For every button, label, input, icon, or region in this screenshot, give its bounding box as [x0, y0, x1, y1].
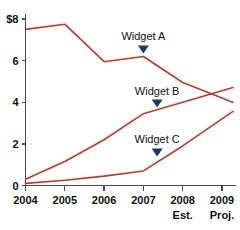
x-tick-label: 2006 [92, 194, 116, 206]
x-tick-label: 2008 [170, 194, 194, 206]
y-tick-label: 2 [12, 138, 18, 150]
line-chart: 0246$8 20042005200620072008Est.2009Proj.… [0, 0, 240, 230]
annotation-label-widget-c: Widget C [135, 133, 180, 145]
y-tick-label: 4 [12, 96, 19, 108]
y-tick-label: 6 [12, 55, 18, 67]
annotation-widget-a: Widget A [121, 30, 166, 53]
x-axis-ticks: 20042005200620072008Est.2009Proj. [13, 186, 234, 221]
chart-plot-area: 0246$8 20042005200620072008Est.2009Proj.… [0, 0, 240, 230]
x-tick-sublabel: Proj. [210, 209, 234, 221]
y-tick-label: $8 [6, 13, 18, 25]
chart-series-lines [26, 24, 234, 183]
y-axis-ticks: 0246$8 [6, 13, 25, 192]
x-tick-sublabel: Est. [173, 209, 193, 221]
annotation-widget-b: Widget B [135, 85, 180, 108]
annotation-label-widget-a: Widget A [121, 30, 166, 42]
x-tick-label: 2005 [53, 194, 77, 206]
chart-annotations: Widget AWidget BWidget C [121, 30, 179, 156]
annotation-down-triangle-icon-widget-c [152, 148, 163, 156]
x-tick-label: 2007 [131, 194, 155, 206]
y-tick-label: 0 [12, 180, 18, 192]
x-tick-label: 2009 [210, 194, 234, 206]
annotation-down-triangle-icon-widget-b [152, 100, 163, 108]
x-tick-label: 2004 [13, 194, 38, 206]
annotation-label-widget-b: Widget B [135, 85, 180, 97]
annotation-down-triangle-icon-widget-a [138, 45, 149, 53]
